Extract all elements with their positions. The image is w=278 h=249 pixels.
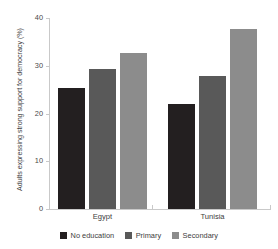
y-tick-20: 20 — [0, 114, 49, 115]
legend-label-secondary: Secondary — [183, 231, 218, 240]
y-tick-label: 10 — [35, 156, 43, 166]
y-axis-title: Adults expressing strong support for dem… — [15, 15, 24, 205]
bar-egypt-primary — [89, 69, 116, 209]
legend-swatch-no-education — [60, 232, 67, 239]
x-axis-line — [49, 209, 271, 210]
x-axis-label-egypt: Egypt — [58, 212, 147, 221]
x-axis-divider-1 — [270, 205, 271, 210]
y-tick-30: 30 — [0, 66, 49, 67]
y-tick-10: 10 — [0, 161, 49, 162]
legend-swatch-primary — [125, 232, 132, 239]
bar-egypt-secondary — [120, 53, 147, 209]
legend-item-no-education[interactable]: No education — [60, 231, 114, 240]
y-tick-0: 0 — [0, 209, 49, 210]
y-tick-label: 40 — [35, 13, 43, 23]
bar-egypt-no-education — [58, 88, 85, 209]
bar-tunisia-secondary — [230, 29, 257, 209]
bar-chart: Adults expressing strong support for dem… — [0, 0, 278, 249]
y-tick-mark — [46, 209, 49, 210]
bar-tunisia-primary — [199, 76, 226, 209]
legend-item-primary[interactable]: Primary — [125, 231, 161, 240]
y-tick-label: 0 — [39, 204, 43, 214]
legend-swatch-secondary — [172, 232, 179, 239]
y-tick-40: 40 — [0, 18, 49, 19]
bar-tunisia-no-education — [168, 104, 195, 209]
y-tick-label: 30 — [35, 61, 43, 71]
legend-label-primary: Primary — [136, 231, 161, 240]
x-axis-label-tunisia: Tunisia — [168, 212, 257, 221]
y-tick-label: 20 — [35, 109, 43, 119]
legend-item-secondary[interactable]: Secondary — [172, 231, 218, 240]
x-axis-divider-0 — [152, 205, 153, 210]
legend-label-no-education: No education — [71, 231, 115, 240]
chart-legend: No educationPrimarySecondary — [0, 231, 278, 240]
